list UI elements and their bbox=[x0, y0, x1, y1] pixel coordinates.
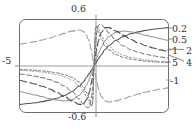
axis-label-left: -5 bbox=[2, 56, 11, 66]
axis-label-top: 0.6 bbox=[71, 4, 86, 14]
series-label-5: 4 bbox=[186, 58, 192, 68]
series-label-3: 2 bbox=[186, 46, 192, 56]
series-label-1: 0.5 bbox=[172, 35, 187, 45]
series-label-6: -1 bbox=[170, 76, 179, 86]
series-label-0: 0.2 bbox=[172, 24, 187, 34]
series-label-4: 5 bbox=[172, 58, 178, 68]
axis-label-bottom: -0.6 bbox=[68, 112, 86, 122]
series-label-2: 1 bbox=[172, 46, 178, 56]
plot-figure bbox=[0, 0, 196, 129]
